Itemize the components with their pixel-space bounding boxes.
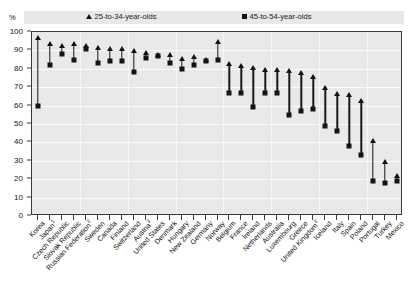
gridline-vertical bbox=[367, 32, 368, 214]
data-point-25-to-34 bbox=[310, 74, 316, 79]
data-point-45-to-54 bbox=[347, 144, 352, 149]
gridline-vertical bbox=[223, 32, 224, 214]
data-point-45-to-54 bbox=[227, 90, 232, 95]
series-connector bbox=[265, 69, 266, 93]
series-connector bbox=[277, 69, 278, 93]
series-connector bbox=[37, 38, 38, 106]
gridline-horizontal bbox=[32, 69, 401, 70]
series-connector bbox=[313, 76, 314, 109]
y-tick-label: 100 bbox=[10, 27, 23, 36]
data-point-45-to-54 bbox=[263, 90, 268, 95]
plot-area bbox=[31, 31, 402, 215]
data-point-25-to-34 bbox=[143, 50, 149, 55]
data-point-45-to-54 bbox=[287, 112, 292, 117]
data-point-45-to-54 bbox=[335, 129, 340, 134]
gridline-vertical bbox=[319, 32, 320, 214]
series-connector bbox=[348, 95, 349, 147]
data-point-45-to-54 bbox=[395, 179, 400, 184]
data-point-25-to-34 bbox=[155, 52, 161, 57]
data-point-45-to-54 bbox=[383, 180, 388, 185]
data-point-25-to-34 bbox=[59, 43, 65, 48]
gridline-horizontal bbox=[32, 87, 401, 88]
series-connector bbox=[241, 65, 242, 93]
clipped-header-strip: · · · · · · · · · · · · bbox=[0, 0, 415, 9]
data-point-45-to-54 bbox=[191, 63, 196, 68]
data-point-45-to-54 bbox=[251, 105, 256, 110]
data-point-25-to-34 bbox=[382, 159, 388, 164]
data-point-25-to-34 bbox=[191, 54, 197, 59]
data-point-45-to-54 bbox=[239, 90, 244, 95]
data-point-45-to-54 bbox=[323, 123, 328, 128]
data-point-45-to-54 bbox=[371, 179, 376, 184]
legend-item-25-to-34: 25-to-34-year-olds bbox=[86, 12, 157, 21]
x-axis-labels: KoreaJapan1Czech RepublicSlovak Republic… bbox=[0, 219, 415, 286]
triangle-up-icon bbox=[86, 14, 92, 19]
chart-legend: 25-to-34-year-olds 45-to-54-year-olds bbox=[24, 11, 404, 24]
data-point-45-to-54 bbox=[143, 55, 148, 60]
data-point-25-to-34 bbox=[179, 56, 185, 61]
data-point-25-to-34 bbox=[203, 57, 209, 62]
data-point-45-to-54 bbox=[167, 61, 172, 66]
data-point-25-to-34 bbox=[226, 61, 232, 66]
gridline-horizontal bbox=[32, 161, 401, 162]
data-point-25-to-34 bbox=[35, 35, 41, 40]
data-point-25-to-34 bbox=[131, 48, 137, 53]
data-point-25-to-34 bbox=[286, 68, 292, 73]
gridline-vertical bbox=[128, 32, 129, 214]
data-point-25-to-34 bbox=[119, 46, 125, 51]
y-tick-label: 70 bbox=[14, 82, 23, 91]
data-point-45-to-54 bbox=[215, 57, 220, 62]
y-tick-label: 10 bbox=[14, 192, 23, 201]
data-point-25-to-34 bbox=[346, 92, 352, 97]
data-point-25-to-34 bbox=[358, 98, 364, 103]
series-connector bbox=[360, 100, 361, 155]
legend-item-45-to-54: 45-to-54-year-olds bbox=[242, 12, 312, 21]
y-axis-unit-label: % bbox=[9, 13, 16, 22]
data-point-25-to-34 bbox=[334, 91, 340, 96]
data-point-45-to-54 bbox=[299, 109, 304, 114]
series-connector bbox=[325, 87, 326, 126]
series-connector bbox=[372, 141, 373, 181]
legend-label-45-to-54: 45-to-54-year-olds bbox=[250, 12, 312, 21]
data-point-45-to-54 bbox=[131, 70, 136, 75]
series-connector bbox=[253, 67, 254, 107]
gridline-horizontal bbox=[32, 124, 401, 125]
square-icon bbox=[242, 14, 247, 19]
data-point-45-to-54 bbox=[179, 66, 184, 71]
series-connector bbox=[336, 93, 337, 132]
y-tick-label: 40 bbox=[14, 137, 23, 146]
data-point-45-to-54 bbox=[35, 103, 40, 108]
series-connector bbox=[229, 63, 230, 92]
data-point-25-to-34 bbox=[394, 173, 400, 178]
gridline-vertical bbox=[80, 32, 81, 214]
data-point-45-to-54 bbox=[311, 107, 316, 112]
gridline-horizontal bbox=[32, 179, 401, 180]
data-point-25-to-34 bbox=[322, 85, 328, 90]
data-point-45-to-54 bbox=[95, 61, 100, 66]
data-point-25-to-34 bbox=[47, 41, 53, 46]
data-point-25-to-34 bbox=[274, 67, 280, 72]
data-point-25-to-34 bbox=[298, 70, 304, 75]
data-point-45-to-54 bbox=[107, 59, 112, 64]
data-point-45-to-54 bbox=[359, 153, 364, 158]
y-tick-label: 20 bbox=[14, 174, 23, 183]
data-point-25-to-34 bbox=[83, 43, 89, 48]
y-tick-label: 60 bbox=[14, 100, 23, 109]
y-tick-label: 30 bbox=[14, 155, 23, 164]
data-point-45-to-54 bbox=[47, 63, 52, 68]
data-point-25-to-34 bbox=[250, 65, 256, 70]
data-point-25-to-34 bbox=[370, 138, 376, 143]
gridline-horizontal bbox=[32, 198, 401, 199]
data-point-25-to-34 bbox=[238, 63, 244, 68]
data-point-25-to-34 bbox=[262, 67, 268, 72]
data-point-45-to-54 bbox=[119, 59, 124, 64]
data-point-45-to-54 bbox=[275, 90, 280, 95]
data-point-25-to-34 bbox=[95, 45, 101, 50]
y-tick-label: 80 bbox=[14, 63, 23, 72]
gridline-horizontal bbox=[32, 106, 401, 107]
gridline-vertical bbox=[271, 32, 272, 214]
data-point-25-to-34 bbox=[215, 39, 221, 44]
chart-screenshot: · · · · · · · · · · · · 25-to-34-year-ol… bbox=[0, 0, 415, 286]
y-tick-label: 50 bbox=[14, 119, 23, 128]
data-point-25-to-34 bbox=[167, 52, 173, 57]
